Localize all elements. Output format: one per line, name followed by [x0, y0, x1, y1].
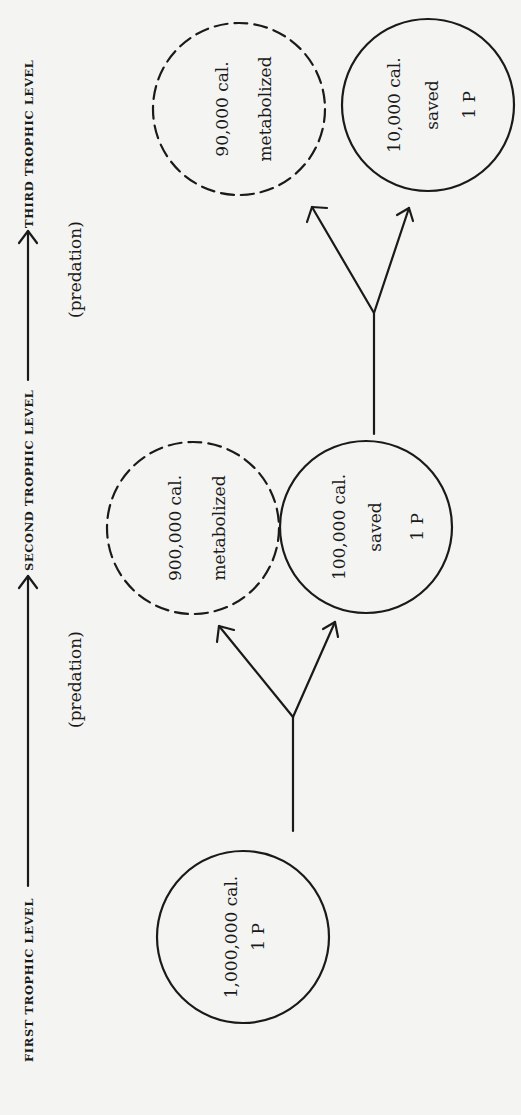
branch-right-2	[374, 208, 409, 313]
node-level1-calories: 1,000,000 cal.	[221, 876, 241, 998]
branch-right-1	[293, 622, 335, 717]
node-level2-saved-calories: 100,000 cal.	[329, 474, 349, 580]
trophic-energy-flow-diagram: FIRST TROPHIC LEVEL SECOND TROPHIC LEVEL…	[0, 0, 521, 1115]
node-level2-metabolized: 900,000 cal. metabolized	[107, 442, 279, 614]
node-level2-metabolized-label: metabolized	[209, 475, 229, 580]
node-level2-saved: 100,000 cal. saved 1 P	[280, 441, 452, 613]
node-level3-metabolized-label: metabolized	[255, 56, 275, 161]
branch-level2-to-level3	[307, 207, 413, 434]
node-level3-saved-label: saved	[422, 80, 442, 130]
circle-dashed-level3	[153, 23, 325, 195]
node-level1: 1,000,000 cal. 1 P	[157, 851, 329, 1023]
third-trophic-level-label: THIRD TROPHIC LEVEL	[22, 59, 36, 228]
node-level2-saved-label: saved	[365, 502, 385, 552]
node-level2-saved-count: 1 P	[407, 513, 427, 541]
branch-left-2	[312, 207, 374, 313]
node-level3-metabolized-calories: 90,000 cal.	[212, 61, 232, 156]
circle-solid-level1	[157, 851, 329, 1023]
second-trophic-level-label: SECOND TROPHIC LEVEL	[22, 389, 36, 571]
first-trophic-level-label: FIRST TROPHIC LEVEL	[22, 898, 36, 1062]
predation-label-2: (predation)	[65, 221, 85, 318]
circle-dashed-level2	[107, 442, 279, 614]
node-level3-saved-calories: 10,000 cal.	[384, 57, 404, 152]
node-level2-metabolized-calories: 900,000 cal.	[165, 475, 185, 581]
node-level3-saved: 10,000 cal. saved 1 P	[342, 19, 514, 191]
node-level3-saved-count: 1 P	[459, 91, 479, 119]
predation-label-1: (predation)	[65, 631, 85, 728]
node-level1-count: 1 P	[248, 923, 268, 951]
branch-level1-to-level2	[217, 622, 338, 831]
trophic-axis: FIRST TROPHIC LEVEL SECOND TROPHIC LEVEL…	[19, 59, 37, 1062]
node-level3-metabolized: 90,000 cal. metabolized	[153, 23, 325, 195]
branch-left-1	[219, 626, 293, 717]
